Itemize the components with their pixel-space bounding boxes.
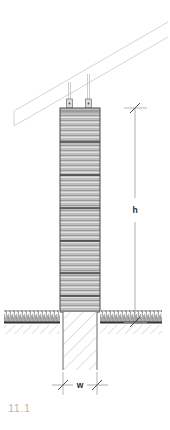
dimension-width-label: w xyxy=(76,380,84,390)
post-footing-diagram: h w xyxy=(0,0,170,430)
dimension-height-label: h xyxy=(132,205,137,215)
grass-left xyxy=(4,310,60,322)
bracket-right xyxy=(86,74,92,108)
figure-label: 11.1 xyxy=(8,402,31,414)
figure-canvas: h w 11.1 xyxy=(0,0,170,430)
concrete-footing xyxy=(63,312,97,370)
dimension-height: h xyxy=(124,103,147,327)
dimension-width: w xyxy=(52,372,108,395)
timber-post xyxy=(60,108,100,312)
grass-right xyxy=(100,310,162,322)
